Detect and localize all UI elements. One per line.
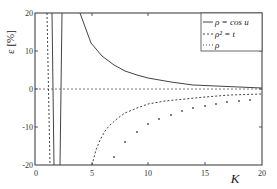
series-rho — [113, 99, 251, 158]
y-tick-label: 10 — [25, 47, 33, 56]
legend-label-rho: ρ — [214, 40, 220, 50]
x-axis-label: K — [230, 171, 241, 186]
y-tick-label: 20 — [25, 9, 33, 18]
legend-label-rho-squared: ρ² = t — [214, 29, 236, 39]
legend: ρ = cos u ρ² = t ρ — [201, 13, 262, 51]
x-tick-label: 0 — [34, 169, 38, 178]
x-tick-label: 20 — [258, 169, 266, 178]
chart: 20 10 0 -10 -20 0 5 10 15 20 K ε [%] — [0, 0, 277, 189]
y-tick-label: 0 — [29, 85, 33, 94]
y-tick-label: -10 — [22, 123, 33, 132]
y-tick-label: -20 — [22, 161, 33, 170]
x-tick-label: 5 — [90, 169, 94, 178]
x-tick-label: 15 — [201, 169, 209, 178]
x-tick-label: 10 — [144, 169, 152, 178]
y-axis-label: ε [%] — [4, 30, 16, 54]
legend-label-cos-u: ρ = cos u — [214, 17, 249, 27]
